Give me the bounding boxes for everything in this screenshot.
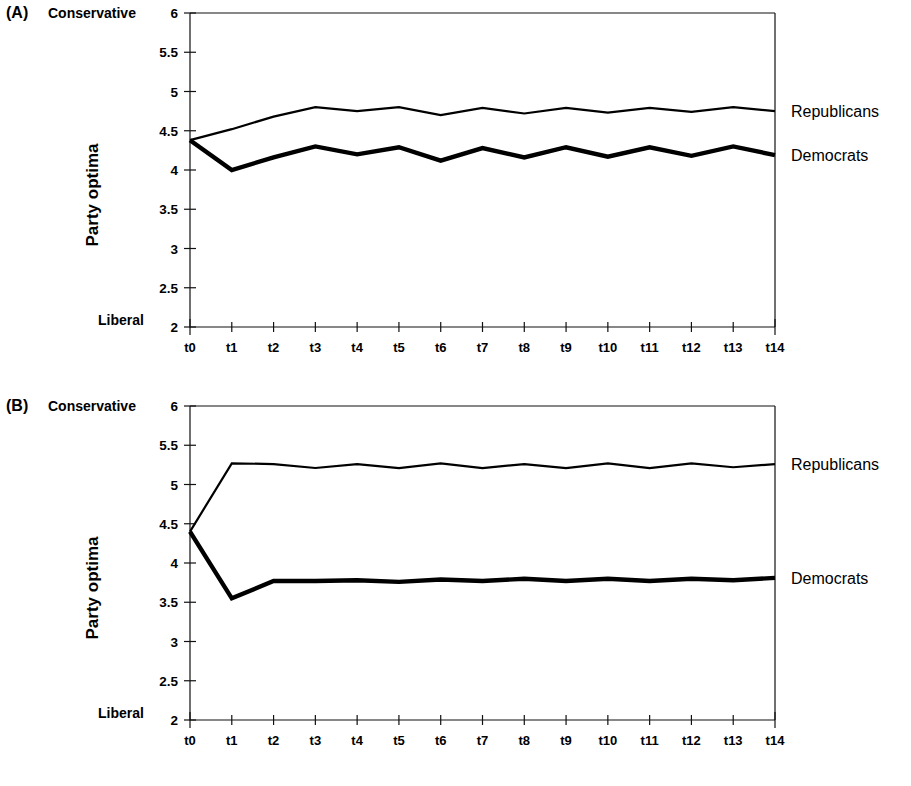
x-tick-label: t9 xyxy=(560,733,572,748)
series-line-republicans xyxy=(190,107,775,140)
y-tick-label: 2.5 xyxy=(159,674,178,689)
y-tick-label: 4.5 xyxy=(159,517,178,532)
series-line-democrats xyxy=(190,532,775,599)
axis-frame xyxy=(190,13,775,327)
x-tick-label: t1 xyxy=(226,340,238,355)
y-tick-label: 5.5 xyxy=(159,45,178,60)
y-tick-label: 2.5 xyxy=(159,281,178,296)
series-label-republicans: Republicans xyxy=(791,456,879,473)
y-tick-label: 4.5 xyxy=(159,124,178,139)
panel-b: (B) Conservative Liberal Party optima 22… xyxy=(0,393,911,786)
y-tick-label: 6 xyxy=(170,399,178,414)
x-tick-label: t6 xyxy=(435,340,447,355)
x-tick-label: t10 xyxy=(598,733,617,748)
x-tick-label: t11 xyxy=(641,733,659,748)
series-label-democrats: Democrats xyxy=(791,570,868,587)
x-tick-label: t4 xyxy=(351,340,363,355)
x-tick-label: t10 xyxy=(598,340,617,355)
series-label-democrats: Democrats xyxy=(791,147,868,164)
y-tick-label: 2 xyxy=(170,320,178,335)
series-label-republicans: Republicans xyxy=(791,103,879,120)
series-line-republicans xyxy=(190,463,775,531)
x-tick-label: t9 xyxy=(560,340,572,355)
panel-a: (A) Conservative Liberal Party optima 22… xyxy=(0,0,911,393)
x-tick-label: t8 xyxy=(519,733,531,748)
y-tick-label: 3 xyxy=(170,242,178,257)
x-tick-label: t5 xyxy=(393,340,405,355)
x-tick-label: t12 xyxy=(682,340,701,355)
x-tick-label: t5 xyxy=(393,733,405,748)
y-tick-label: 2 xyxy=(170,713,178,728)
x-tick-label: t2 xyxy=(268,340,280,355)
y-tick-label: 6 xyxy=(170,6,178,21)
x-tick-label: t1 xyxy=(226,733,238,748)
x-tick-label: t0 xyxy=(184,340,196,355)
x-tick-label: t13 xyxy=(724,733,743,748)
x-tick-label: t14 xyxy=(766,340,786,355)
y-tick-label: 3.5 xyxy=(159,595,178,610)
x-tick-label: t12 xyxy=(682,733,701,748)
y-tick-label: 5.5 xyxy=(159,438,178,453)
y-tick-label: 3.5 xyxy=(159,202,178,217)
x-tick-label: t3 xyxy=(310,733,322,748)
y-tick-label: 5 xyxy=(170,478,178,493)
x-tick-label: t7 xyxy=(477,340,489,355)
x-tick-label: t2 xyxy=(268,733,280,748)
y-tick-label: 4 xyxy=(170,556,178,571)
x-tick-label: t7 xyxy=(477,733,489,748)
y-tick-label: 3 xyxy=(170,635,178,650)
x-tick-label: t3 xyxy=(310,340,322,355)
panel-a-plot: 22.533.544.555.56t0t1t2t3t4t5t6t7t8t9t10… xyxy=(0,0,911,393)
series-line-democrats xyxy=(190,140,775,170)
x-tick-label: t13 xyxy=(724,340,743,355)
axis-frame xyxy=(190,406,775,720)
x-tick-label: t0 xyxy=(184,733,196,748)
x-tick-label: t11 xyxy=(641,340,659,355)
x-tick-label: t6 xyxy=(435,733,447,748)
x-tick-label: t14 xyxy=(766,733,786,748)
y-tick-label: 5 xyxy=(170,85,178,100)
panel-b-plot: 22.533.544.555.56t0t1t2t3t4t5t6t7t8t9t10… xyxy=(0,393,911,786)
x-tick-label: t4 xyxy=(351,733,363,748)
y-tick-label: 4 xyxy=(170,163,178,178)
x-tick-label: t8 xyxy=(519,340,531,355)
